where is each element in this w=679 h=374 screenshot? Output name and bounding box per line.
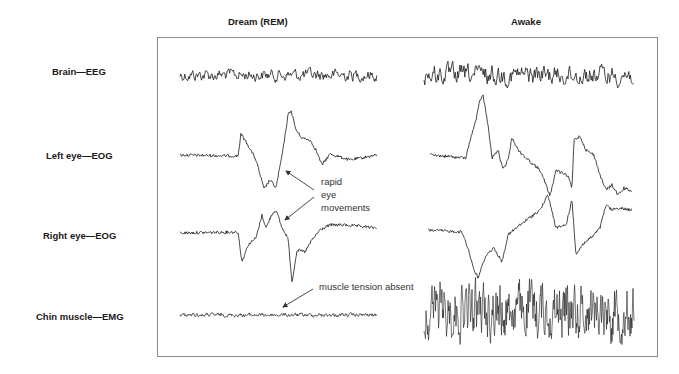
- awake-emg-trace: [424, 278, 634, 345]
- awake-left-eog-trace: [430, 95, 632, 196]
- arrow-emg: [283, 289, 313, 307]
- arrow-right-eog: [285, 197, 314, 220]
- dream-eeg-trace: [180, 67, 377, 82]
- trace-layer: [180, 61, 634, 344]
- polygraph-traces: [0, 0, 679, 374]
- arrow-left-eog: [286, 171, 314, 190]
- dream-right-eog-trace: [180, 211, 377, 281]
- awake-right-eog-trace: [428, 195, 632, 278]
- dream-emg-trace: [180, 313, 377, 318]
- dream-left-eog-trace: [180, 111, 377, 188]
- awake-eeg-trace: [424, 61, 634, 88]
